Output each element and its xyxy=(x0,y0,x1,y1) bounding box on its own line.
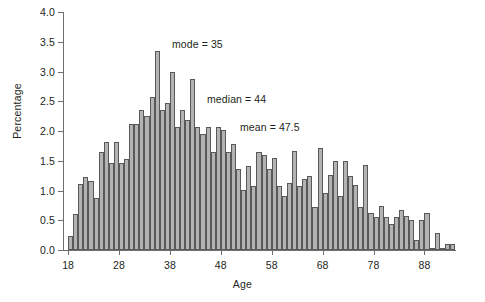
y-tick-mark xyxy=(58,131,63,132)
y-tick-label: 1.0 xyxy=(40,185,55,197)
x-tick-mark xyxy=(68,250,69,255)
histogram-bar xyxy=(424,213,429,250)
x-axis-title: Age xyxy=(0,278,485,290)
y-tick-label: 4.0 xyxy=(40,6,55,18)
y-tick-mark xyxy=(58,161,63,162)
y-tick-mark xyxy=(58,12,63,13)
y-tick-mark xyxy=(58,250,63,251)
y-tick-label: 1.5 xyxy=(40,155,55,167)
x-tick-label: 38 xyxy=(164,259,176,271)
x-tick-label: 28 xyxy=(113,259,125,271)
histogram-bar xyxy=(450,244,455,250)
x-tick-label: 78 xyxy=(368,259,380,271)
x-tick-mark xyxy=(424,250,425,255)
x-tick-mark xyxy=(374,250,375,255)
x-tick-label: 18 xyxy=(62,259,74,271)
x-tick-label: 58 xyxy=(266,259,278,271)
x-axis-line xyxy=(63,250,456,251)
annotation-median: median = 44 xyxy=(207,93,266,105)
y-tick-label: 0.5 xyxy=(40,214,55,226)
y-tick-label: 2.5 xyxy=(40,95,55,107)
y-tick-mark xyxy=(58,220,63,221)
y-tick-label: 3.0 xyxy=(40,66,55,78)
y-tick-label: 2.0 xyxy=(40,125,55,137)
x-tick-mark xyxy=(221,250,222,255)
x-tick-mark xyxy=(272,250,273,255)
x-tick-label: 68 xyxy=(317,259,329,271)
y-tick-mark xyxy=(58,101,63,102)
y-tick-label: 0.0 xyxy=(40,244,55,256)
x-tick-label: 48 xyxy=(215,259,227,271)
y-tick-mark xyxy=(58,72,63,73)
histogram-figure: Percentage Age 0.00.51.01.52.02.53.03.54… xyxy=(0,0,485,302)
x-tick-mark xyxy=(119,250,120,255)
x-tick-label: 88 xyxy=(419,259,431,271)
y-axis-title: Percentage xyxy=(11,66,23,156)
annotation-mean: mean = 47.5 xyxy=(240,121,300,133)
y-tick-mark xyxy=(58,42,63,43)
x-tick-mark xyxy=(170,250,171,255)
y-tick-label: 3.5 xyxy=(40,36,55,48)
annotation-mode: mode = 35 xyxy=(172,38,223,50)
y-tick-mark xyxy=(58,191,63,192)
x-tick-mark xyxy=(323,250,324,255)
